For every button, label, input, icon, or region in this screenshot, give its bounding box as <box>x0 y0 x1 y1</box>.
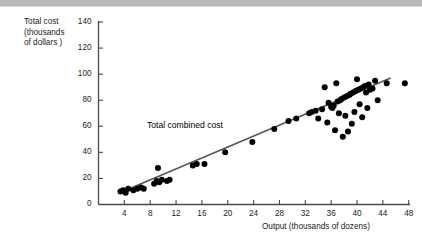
data-point <box>370 85 376 91</box>
data-point <box>313 108 319 114</box>
data-point <box>351 109 357 115</box>
data-point <box>332 127 338 133</box>
data-point <box>364 105 370 111</box>
axes-group <box>99 21 411 205</box>
data-point <box>194 161 200 167</box>
data-point <box>324 119 330 125</box>
data-point <box>359 114 365 120</box>
data-point <box>333 80 339 86</box>
data-point <box>349 121 355 127</box>
data-point <box>354 76 360 82</box>
scatter-plot-canvas <box>0 0 422 242</box>
data-point <box>384 80 390 86</box>
data-point <box>159 177 165 183</box>
data-point <box>222 149 228 155</box>
data-point <box>342 113 348 119</box>
data-point <box>315 115 321 121</box>
data-point <box>345 129 351 135</box>
data-point <box>319 106 325 112</box>
data-point <box>293 115 299 121</box>
data-point <box>402 80 408 86</box>
chart-figure: Total cost (thousands of dollars ) Outpu… <box>0 0 422 242</box>
data-point <box>286 118 292 124</box>
data-point <box>375 97 381 103</box>
data-point <box>336 110 342 116</box>
data-point <box>271 126 277 132</box>
data-points-group <box>117 76 407 195</box>
data-point <box>141 186 147 192</box>
data-point <box>372 78 378 84</box>
data-point <box>201 161 207 167</box>
data-point <box>249 139 255 145</box>
data-point <box>340 134 346 140</box>
data-point <box>322 84 328 90</box>
data-point <box>357 101 363 107</box>
data-point <box>155 165 161 171</box>
data-point <box>167 177 173 183</box>
data-point <box>125 186 131 192</box>
